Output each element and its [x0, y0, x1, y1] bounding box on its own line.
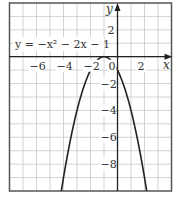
- y-tick-label: −6: [101, 131, 117, 144]
- parabola-chart: −6−4−2022−2−4−6−8 y = −x² − 2x − 1 x y: [0, 0, 176, 199]
- y-tick-label: −8: [101, 158, 117, 171]
- y-tick-label: −2: [101, 78, 117, 91]
- x-tick-label: −2: [84, 60, 100, 73]
- y-axis-arrow-icon: [115, 3, 121, 11]
- x-axis-label: x: [163, 58, 170, 72]
- equation-label: y = −x² − 2x − 1: [14, 38, 110, 51]
- equation-label-group: y = −x² − 2x − 1: [13, 37, 110, 51]
- x-tick-label: −4: [57, 60, 73, 73]
- x-tick-label: −6: [30, 60, 46, 73]
- y-tick-label: 2: [108, 24, 115, 37]
- grid-lines: [10, 3, 172, 191]
- y-axis-label: y: [105, 2, 113, 16]
- x-tick-label: 2: [138, 60, 145, 73]
- y-tick-label: −4: [101, 104, 117, 117]
- x-tick-label: 0: [109, 60, 116, 73]
